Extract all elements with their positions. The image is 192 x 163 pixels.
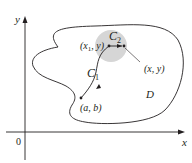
region-label: D — [145, 88, 154, 100]
origin-label: 0 — [16, 136, 21, 147]
point-mid — [108, 45, 111, 48]
point-end — [123, 45, 126, 48]
point-end-label: (x, y) — [144, 63, 165, 75]
point-start — [80, 97, 83, 100]
arrow-c1-icon — [96, 84, 101, 89]
x-axis-label: x — [181, 136, 187, 148]
y-axis-label: y — [14, 13, 20, 25]
c1-label: C1 — [87, 66, 99, 82]
y-axis-arrow-icon — [23, 16, 28, 23]
point-start-label: (a, b) — [80, 102, 102, 114]
diagram-canvas: y x 0 D C2 C1 (x1, y) (x, y) (a, b) — [0, 0, 192, 163]
leader-end — [125, 48, 140, 62]
x-axis-arrow-icon — [178, 130, 185, 135]
c2-label: C2 — [109, 29, 121, 45]
